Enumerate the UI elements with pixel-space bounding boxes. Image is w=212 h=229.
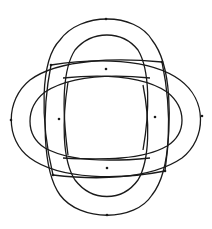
knot-node-dot [201, 115, 204, 118]
knot-node-dot [161, 61, 164, 64]
lobe-bottom-inner-arc [64, 82, 148, 197]
knot-node-dot [105, 68, 108, 71]
lobe-right-inner-arc [63, 76, 182, 159]
knot-node-dot [52, 174, 55, 177]
knot-diagram [0, 0, 212, 229]
knot-node-dot [164, 170, 167, 173]
knot-node-dot [106, 167, 109, 170]
knot-node-dot [10, 119, 13, 122]
knot-node-dot [50, 64, 53, 67]
knot-node-dot [154, 116, 157, 119]
lobe-top-inner-arc [64, 35, 148, 155]
lobe-top-outer-arc [44, 19, 169, 175]
knot-node-dot [105, 18, 108, 21]
knot-node-dot [58, 118, 61, 121]
knot-node-dot [106, 214, 109, 217]
lobe-bottom-outer-arc [45, 62, 168, 215]
